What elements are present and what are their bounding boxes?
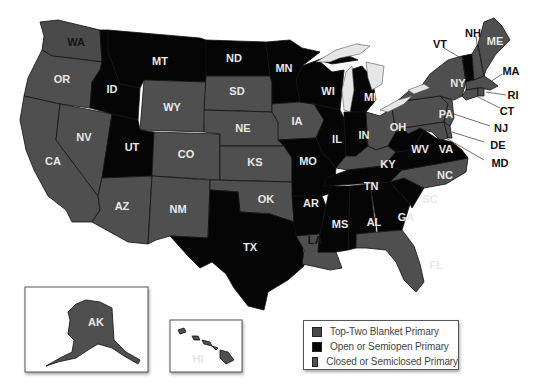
label-ut: UT — [125, 141, 140, 153]
label-mo: MO — [299, 155, 317, 167]
label-ak: AK — [88, 316, 104, 328]
label-vt: VT — [433, 38, 447, 50]
label-ct: CT — [500, 105, 515, 117]
label-nj: NJ — [494, 122, 508, 134]
legend-label-open: Open or Semiopen Primary — [330, 341, 449, 352]
label-md: MD — [491, 157, 508, 169]
legend-item-closed: Closed or Semiclosed Primary — [312, 354, 458, 369]
label-id: ID — [107, 83, 118, 95]
label-va: VA — [439, 143, 454, 155]
label-nm: NM — [169, 203, 186, 215]
label-ar: AR — [303, 197, 319, 209]
label-ne: NE — [235, 122, 250, 134]
state-ri — [478, 88, 484, 96]
label-pa: PA — [439, 108, 454, 120]
legend-label-closed: Closed or Semiclosed Primary — [326, 356, 458, 367]
label-mt: MT — [152, 55, 168, 67]
label-ma: MA — [502, 65, 519, 77]
label-wy: WY — [163, 101, 181, 113]
leader-nj — [454, 114, 490, 126]
label-nd: ND — [226, 52, 242, 64]
label-me: ME — [487, 35, 504, 47]
legend-swatch-closed — [312, 357, 318, 367]
legend: Top-Two Blanket Primary Open or Semiopen… — [303, 320, 459, 370]
label-il: IL — [332, 133, 342, 145]
label-or: OR — [54, 73, 71, 85]
label-sc: SC — [422, 193, 437, 205]
label-ia: IA — [292, 115, 303, 127]
leader-ct — [476, 96, 500, 108]
label-fl: FL — [429, 259, 443, 271]
label-wa: WA — [67, 36, 85, 48]
label-hi: HI — [193, 353, 204, 365]
leader-ri — [486, 92, 506, 95]
label-mn: MN — [275, 62, 292, 74]
hawaii-inset — [170, 320, 242, 372]
legend-swatch-top-two — [312, 327, 322, 337]
label-mi: MI — [364, 91, 376, 103]
label-oh: OH — [390, 121, 407, 133]
label-ok: OK — [258, 193, 275, 205]
label-nv: NV — [76, 131, 92, 143]
state-fl — [356, 230, 424, 292]
label-nc: NC — [437, 169, 453, 181]
label-ca: CA — [45, 155, 61, 167]
legend-item-open: Open or Semiopen Primary — [312, 339, 458, 354]
leader-de — [452, 132, 484, 142]
legend-swatch-open — [312, 342, 322, 352]
label-in: IN — [359, 129, 370, 141]
label-ga: GA — [398, 211, 415, 223]
state-ct — [462, 88, 478, 100]
label-ri: RI — [508, 89, 519, 101]
label-de: DE — [490, 139, 505, 151]
label-ny: NY — [450, 77, 466, 89]
label-nh: NH — [465, 27, 481, 39]
legend-item-top-two: Top-Two Blanket Primary — [312, 324, 458, 339]
label-wi: WI — [321, 85, 334, 97]
label-ks: KS — [247, 156, 262, 168]
label-ky: KY — [380, 158, 396, 170]
label-sd: SD — [229, 85, 244, 97]
state-wi — [296, 60, 344, 110]
label-tx: TX — [243, 241, 258, 253]
label-al: AL — [367, 216, 382, 228]
legend-label-top-two: Top-Two Blanket Primary — [330, 326, 439, 337]
label-co: CO — [178, 148, 195, 160]
label-la: LA — [308, 234, 323, 246]
label-tn: TN — [364, 180, 379, 192]
label-wv: WV — [411, 143, 429, 155]
label-ms: MS — [332, 218, 349, 230]
label-az: AZ — [115, 200, 130, 212]
leader-ma — [490, 74, 502, 82]
